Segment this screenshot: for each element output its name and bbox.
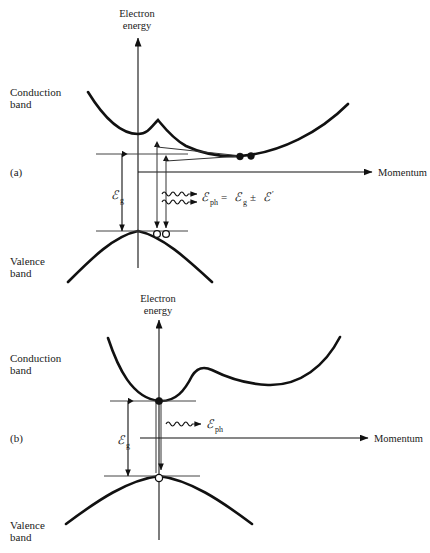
panel-a-energy-axis-label-line2: energy	[123, 20, 152, 31]
panel-a-valence-band-label-line1: Valence	[10, 255, 45, 267]
panel-a-conduction-band-label-line1: Conduction	[10, 86, 62, 98]
panel-b-valence-band-label-line1: Valence	[10, 519, 45, 531]
panel-b-valence-band-label-line2: band	[10, 531, 32, 543]
panel-a-momentum-axis-label: Momentum	[378, 167, 427, 178]
panel-a-valence-band-label-line2: band	[10, 267, 32, 279]
panel-a-equation-lhs-subscript: ph	[210, 198, 218, 207]
panel-b-electron-dot	[155, 397, 162, 404]
panel-a-equation-plusminus: ±	[250, 191, 256, 203]
panel-b-label: (b)	[10, 432, 23, 445]
panel-b-momentum-axis-label: Momentum	[374, 433, 423, 444]
panel-a-electron-dot-2	[248, 153, 255, 160]
panel-a-hole-circle-2	[163, 231, 170, 238]
panel-b-equation-lhs-subscript: ph	[215, 425, 223, 434]
panel-a-label: (a)	[10, 166, 23, 179]
panel-a-equation-prime: ′	[272, 190, 274, 199]
panel-b-conduction-band-label-line1: Conduction	[10, 352, 62, 364]
panel-a-equation-gap-subscript: g	[243, 198, 247, 207]
panel-a-hole-circle-1	[154, 231, 161, 238]
panel-a-band-gap-subscript: g	[120, 196, 124, 205]
panel-b-conduction-band-label-line2: band	[10, 364, 32, 376]
panel-a-equation-equals: =	[221, 191, 227, 203]
panel-b-band-gap-subscript: g	[126, 441, 130, 450]
panel-b-hole-circle	[155, 474, 162, 481]
panel-b-energy-axis-label-line1: Electron	[140, 293, 176, 304]
figure-background	[0, 0, 430, 553]
panel-b-energy-axis-label-line2: energy	[144, 305, 173, 316]
panel-a-conduction-band-label-line2: band	[10, 98, 32, 110]
band-structure-figure: Electron energy Momentum Conduction band…	[0, 0, 430, 553]
panel-a-electron-dot-1	[237, 153, 244, 160]
panel-a-energy-axis-label-line1: Electron	[119, 8, 155, 19]
